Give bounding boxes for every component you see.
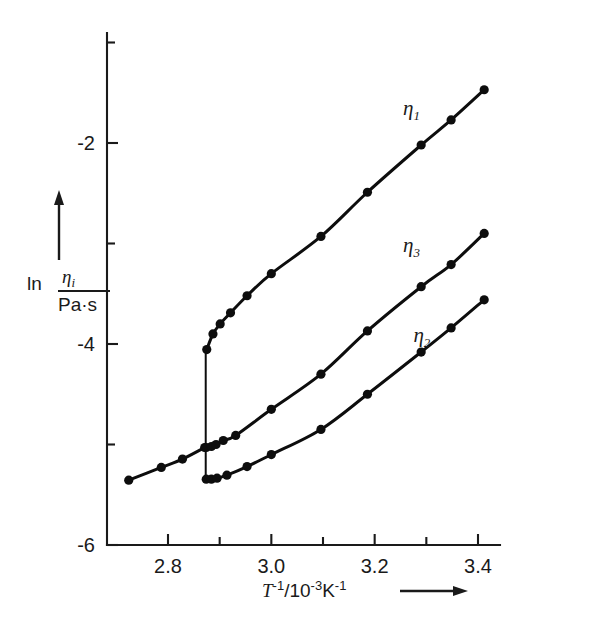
series-label-eta_1: η1 (403, 96, 420, 123)
data-point (480, 229, 489, 238)
data-point (447, 323, 456, 332)
data-point (216, 319, 225, 328)
data-point (267, 405, 276, 414)
data-point (212, 474, 221, 483)
data-point (157, 463, 166, 472)
data-point (226, 308, 235, 317)
y-tick-label: -4 (77, 333, 95, 355)
x-axis-arrow-head (453, 586, 468, 596)
y-tick-group (107, 143, 118, 545)
data-point (219, 436, 228, 445)
data-point (417, 282, 426, 291)
y-axis-label: ln ηi Pa·s (27, 266, 110, 315)
x-tick-label: 3.0 (257, 555, 285, 577)
data-point (178, 454, 187, 463)
data-point (363, 188, 372, 197)
y-label-numerator: ηi (62, 266, 75, 290)
y-tick-label-group: -2-4-6 (77, 132, 95, 556)
series-label-eta_3: η3 (403, 233, 420, 260)
curve-eta_1 (207, 90, 484, 350)
axes-group (107, 33, 500, 545)
data-point (480, 295, 489, 304)
arrhenius-viscosity-chart: -2-4-6 2.83.03.23.4 η1η3η2 ln ηi Pa·s T-… (0, 0, 609, 635)
series-curve-group (129, 90, 484, 480)
data-point (242, 462, 251, 471)
x-tick-label: 3.4 (464, 555, 492, 577)
x-minor-tick-group (220, 537, 427, 545)
data-point (124, 476, 133, 485)
data-point (242, 291, 251, 300)
curve-common-low-branch (129, 448, 205, 481)
y-minor-tick-group (107, 43, 115, 445)
data-point-group (124, 85, 489, 485)
data-point (480, 85, 489, 94)
data-point (316, 370, 325, 379)
x-tick-label: 2.8 (154, 555, 182, 577)
x-tick-label-group: 2.83.03.23.4 (154, 555, 492, 577)
series-label-eta_2: η2 (413, 323, 430, 350)
data-point (417, 140, 426, 149)
x-tick-label: 3.2 (361, 555, 389, 577)
y-tick-label: -6 (77, 534, 95, 556)
data-point (447, 115, 456, 124)
data-point (267, 450, 276, 459)
chart-canvas: -2-4-6 2.83.03.23.4 η1η3η2 ln ηi Pa·s T-… (0, 0, 609, 635)
curve-eta_2 (206, 300, 484, 479)
y-label-denominator: Pa·s (58, 294, 97, 315)
x-label-text: T-1/10-3K-1 (262, 578, 346, 601)
curve-eta_3 (206, 233, 484, 447)
data-point (363, 326, 372, 335)
x-axis-label: T-1/10-3K-1 (262, 578, 468, 601)
data-point (231, 431, 240, 440)
data-point (208, 329, 217, 338)
data-point (316, 425, 325, 434)
y-label-ln: ln (27, 273, 42, 294)
data-point (447, 260, 456, 269)
data-point (316, 232, 325, 241)
data-point (267, 269, 276, 278)
y-tick-label: -2 (77, 132, 95, 154)
data-point (363, 390, 372, 399)
data-point (202, 345, 211, 354)
data-point (222, 471, 231, 480)
y-axis-arrow (54, 190, 64, 260)
series-label-group: η1η3η2 (403, 96, 431, 350)
